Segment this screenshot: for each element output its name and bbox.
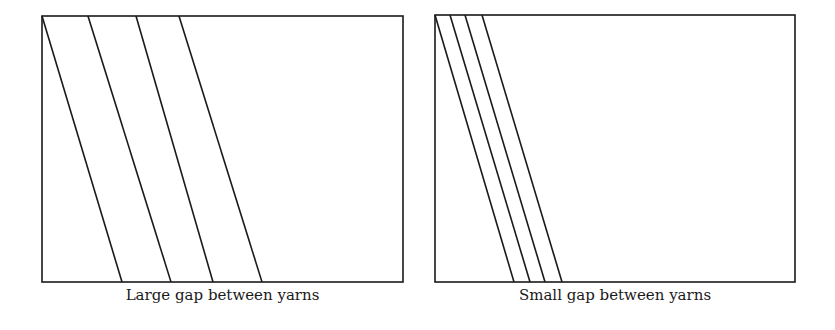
yarn-line: [42, 16, 122, 282]
frame-rectangle: [42, 16, 403, 282]
yarn-line: [450, 15, 530, 282]
yarn-line: [435, 15, 514, 282]
yarn-line: [88, 16, 171, 282]
yarn-line: [482, 15, 562, 282]
yarn-line: [179, 16, 262, 282]
yarn-gap-diagram: [0, 0, 835, 330]
panel-small-gap: [435, 15, 795, 282]
caption-small-gap: Small gap between yarns: [435, 286, 795, 304]
yarn-line: [136, 16, 213, 282]
panel-large-gap: [42, 16, 403, 282]
yarn-line: [465, 15, 545, 282]
frame-rectangle: [435, 15, 795, 282]
caption-large-gap: Large gap between yarns: [42, 286, 403, 304]
